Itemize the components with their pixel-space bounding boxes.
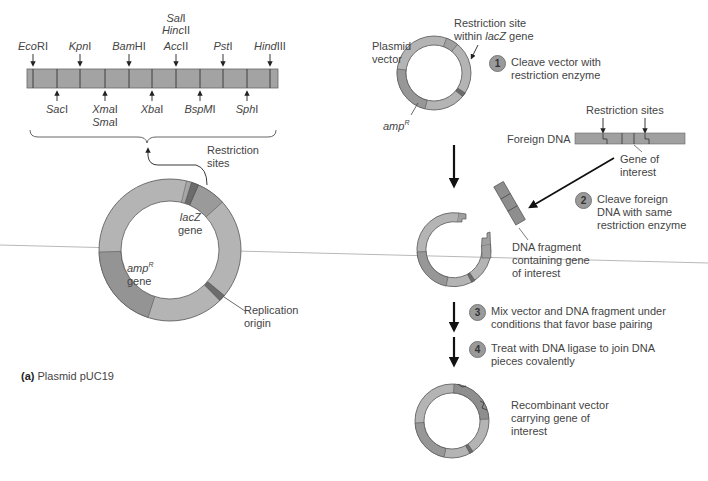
step-4: 4 Treat with DNA ligase to join DNA piec… <box>469 342 655 368</box>
ampr-italic: amp <box>127 262 148 274</box>
dna-fragment <box>494 181 526 225</box>
site-label-xmai: XmaI <box>92 103 118 115</box>
site-label-sphi: SphI <box>236 103 259 115</box>
caption-text: Plasmid pUC19 <box>38 370 114 382</box>
plasmid-vector-line1: Plasmid <box>372 40 411 53</box>
panel-a-caption: (a) Plasmid pUC19 <box>21 370 114 383</box>
step-2-line3: restriction enzyme <box>597 219 686 232</box>
ori-line2: origin <box>244 317 298 330</box>
plasmid-vector-label: Plasmid vector <box>372 40 411 66</box>
step-number-badge: 1 <box>489 55 506 72</box>
step-4-line1: Treat with DNA ligase to join DNA <box>491 342 655 355</box>
foreign-dna-label: Foreign DNA <box>507 133 571 146</box>
ampr-sup: R <box>148 261 153 268</box>
frag-line3: of interest <box>512 267 590 280</box>
site-label-kpni: KpnI <box>69 40 92 52</box>
opened-vector-ring <box>417 213 491 287</box>
frag-line1: DNA fragment <box>512 241 590 254</box>
step-3: 3 Mix vector and DNA fragment under cond… <box>469 305 666 331</box>
step-1: 1 Cleave vector with restriction enzyme <box>489 56 601 82</box>
ampr-gene-word: gene <box>127 275 153 288</box>
step-1-line1: Cleave vector with <box>511 56 601 69</box>
ori-leader <box>224 297 245 311</box>
goi-line1: Gene of <box>620 153 659 166</box>
lacz-gene-word: gene <box>178 224 202 237</box>
step-4-line2: pieces covalently <box>491 355 655 368</box>
site-label-ecori: EcoRI <box>18 40 48 52</box>
rs-lacz-pre: within <box>454 30 485 42</box>
puc19-ring <box>99 179 241 321</box>
site-label-hindiii: HindIII <box>254 40 286 52</box>
rs-lacz-line1: Restriction site <box>454 17 534 30</box>
recomb-line2: carrying gene of <box>511 412 609 425</box>
restriction-site-lacz-label: Restriction site within lacZ gene <box>454 17 534 43</box>
foreign-dna-bar <box>575 118 685 152</box>
vector-ampr-sup: R <box>404 119 409 126</box>
site-label-saci: SacI <box>46 103 68 115</box>
site-label-psti: PstI <box>214 40 233 52</box>
mcs-top-stack: SalI HincII <box>162 12 190 36</box>
site-label-bspmi: BspMI <box>184 103 215 115</box>
mcs-bar <box>27 54 278 101</box>
site-label-bamhi: BamHI <box>112 40 146 52</box>
ori-line1: Replication <box>244 304 298 317</box>
recomb-line1: Recombinant vector <box>511 399 609 412</box>
site-label-accii: AccII <box>164 40 188 52</box>
step-1-line2: restriction enzyme <box>511 69 601 82</box>
step-number-badge: 4 <box>469 341 486 358</box>
step-2-line1: Cleave foreign <box>597 193 686 206</box>
site-label-smai: SmaI <box>92 116 118 128</box>
rs-lacz-italic: lacZ <box>485 30 506 42</box>
recombinant-vector-label: Recombinant vector carrying gene of inte… <box>511 399 609 438</box>
gene-of-interest-label: Gene of interest <box>620 153 659 179</box>
step-2-line2: DNA with same <box>597 206 686 219</box>
frag-line2: containing gene <box>512 254 590 267</box>
mcs-brace <box>30 130 276 143</box>
caption-letter: (a) <box>21 370 34 382</box>
site-label-sali: SalI <box>162 12 190 24</box>
rs-lacz-post: gene <box>506 30 534 42</box>
step-number-badge: 3 <box>469 304 486 321</box>
step-number-badge: 2 <box>575 192 592 209</box>
step-3-line1: Mix vector and DNA fragment under <box>491 305 666 318</box>
lacz-gene-label: lacZ gene <box>178 211 202 237</box>
step-3-line2: conditions that favor base pairing <box>491 318 666 331</box>
vector-ampr-label: ampR <box>383 116 409 133</box>
recombinant-ring <box>415 384 489 458</box>
dna-fragment-label: DNA fragment containing gene of interest <box>512 241 590 280</box>
ampr-gene-label: ampR gene <box>127 258 153 288</box>
recomb-line3: interest <box>511 425 609 438</box>
site-label-xbai: XbaI <box>141 103 164 115</box>
vector-ampr-italic: amp <box>383 120 404 132</box>
site-label-hincii: HincII <box>162 24 190 36</box>
goi-line2: interest <box>620 166 659 179</box>
plasmid-vector-line2: vector <box>372 53 411 66</box>
restriction-sites-label: Restriction sites <box>207 144 259 170</box>
step-2: 2 Cleave foreign DNA with same restricti… <box>575 193 686 232</box>
restriction-sites-line1: Restriction <box>207 144 259 157</box>
restriction-sites-line2: sites <box>207 157 259 170</box>
lacz-italic: lacZ <box>178 211 202 224</box>
foreign-restriction-sites-label: Restriction sites <box>586 104 664 117</box>
replication-origin-label: Replication origin <box>244 304 298 330</box>
